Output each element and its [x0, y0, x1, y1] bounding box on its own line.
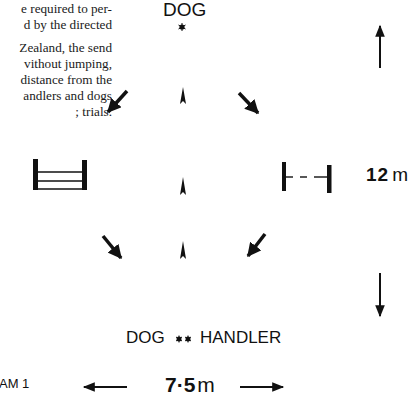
direction-triangle-icon: [180, 177, 186, 195]
direction-arrow-southeast-icon: [239, 93, 258, 113]
height-value: 12: [366, 164, 389, 185]
broad-jump-icon: [282, 162, 332, 193]
direction-arrow-southeast-icon: [103, 236, 121, 258]
height-unit: m: [392, 164, 408, 185]
width-unit: m: [197, 373, 215, 395]
direction-triangle-icon: [180, 241, 186, 259]
direction-arrow-southwest-icon: [248, 234, 265, 256]
hurdle-jump-icon: [33, 159, 87, 190]
direction-triangle-icon: [180, 87, 186, 104]
width-value: 7·5: [165, 373, 195, 395]
width-dimension: 7·5m: [165, 373, 215, 395]
direction-arrow-southwest-icon: [108, 91, 127, 112]
diagram-caption: AM 1: [0, 376, 29, 391]
top-dog-label: DOG: [163, 0, 206, 21]
bottom-dog-label: DOG: [126, 328, 165, 348]
height-dimension: 12m: [366, 164, 408, 186]
dog-position-star-icon: [179, 23, 186, 31]
bottom-handler-label: HANDLER: [200, 328, 281, 348]
dog-handler-stars-icon: [176, 336, 191, 343]
